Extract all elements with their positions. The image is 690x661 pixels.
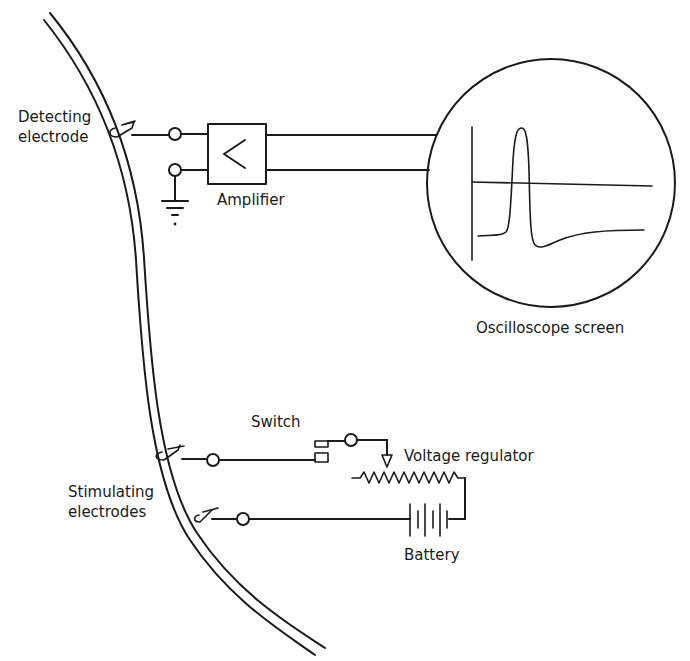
label-voltage-regulator: Voltage regulator [404,446,534,466]
action-potential-trace [478,128,644,247]
switch [315,434,392,467]
detecting-electrode [110,121,208,140]
oscilloscope-screen [427,59,675,307]
label-battery: Battery [404,545,460,565]
label-stimulating-electrodes: Stimulating electrodes [68,482,154,522]
label-amplifier: Amplifier [217,190,285,210]
stimulating-electrode-1 [156,445,315,466]
voltage-regulator [352,472,465,519]
ground-symbol [162,164,208,225]
battery [410,504,447,536]
label-switch: Switch [251,412,301,432]
label-oscilloscope-screen: Oscilloscope screen [476,318,624,338]
stimulating-electrode-2 [195,508,410,525]
amplifier [208,124,436,184]
label-detecting-electrode: Detecting electrode [18,107,91,147]
